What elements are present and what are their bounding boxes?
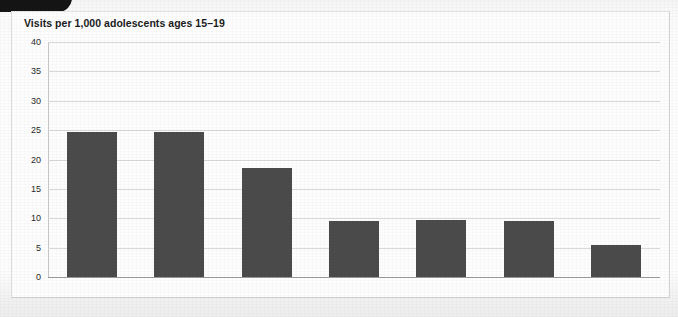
gridline-20 (48, 160, 660, 161)
gridline-0 (48, 277, 660, 278)
gridline-15 (48, 189, 660, 190)
y-axis-tick-label-5: 5 (36, 243, 41, 253)
y-axis-tick-label-35: 35 (31, 66, 41, 76)
bar-overexertion (329, 221, 379, 277)
y-axis-tick-label-10: 10 (31, 213, 41, 223)
bar-fall (154, 132, 204, 277)
gridline-40 (48, 42, 660, 43)
y-axis-tick-label-15: 15 (31, 184, 41, 194)
bar-cut-or-pierced (504, 221, 554, 277)
bar-natural-or-environmental (591, 245, 641, 277)
gridline-35 (48, 71, 660, 72)
y-axis-tick-label-25: 25 (31, 125, 41, 135)
bar-struck (67, 132, 117, 277)
chart-title: Visits per 1,000 adolescents ages 15–19 (24, 17, 225, 29)
y-axis-tick-label-40: 40 (31, 37, 41, 47)
y-axis-tick-label-20: 20 (31, 155, 41, 165)
gridline-30 (48, 101, 660, 102)
gridline-10 (48, 218, 660, 219)
bar-poisoning (416, 220, 466, 277)
y-axis-tick-label-0: 0 (36, 272, 41, 282)
y-axis-tick-label-30: 30 (31, 96, 41, 106)
bar-motor-vehicle-traffic (242, 168, 292, 277)
figure-root: Visits per 1,000 adolescents ages 15–19 … (0, 0, 678, 317)
gridline-25 (48, 130, 660, 131)
plot-area: 0510152025303540StruckFallMotor vehiclet… (48, 42, 660, 277)
